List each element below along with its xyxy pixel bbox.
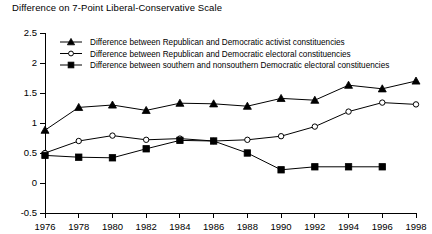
legend-item: Difference between Republican and Democr… [60,50,351,59]
chart-legend: Difference between Republican and Democr… [60,38,389,70]
marker-circle [312,124,317,129]
x-tick-label: 1994 [338,221,359,232]
marker-circle [245,137,250,142]
legend-label: Difference between Republican and Democr… [90,38,345,47]
legend-item: Difference between Republican and Democr… [60,38,345,47]
series-1 [41,77,420,133]
marker-triangle [108,101,116,108]
marker-square [177,137,183,143]
marker-square [42,152,48,158]
x-tick-label: 1978 [68,221,89,232]
x-tick-label: 1980 [102,221,123,232]
legend-label: Difference between Republican and Democr… [90,50,351,59]
marker-square [379,164,385,170]
y-tick-label: -0.5 [21,207,37,218]
marker-square [210,138,216,144]
marker-square [312,164,318,170]
marker-triangle [345,81,353,88]
x-tick-label: 1984 [169,221,190,232]
marker-square [244,150,250,156]
x-tick-label: 1990 [271,221,292,232]
x-tick-label: 1992 [304,221,325,232]
marker-square [143,146,149,152]
x-axis-tick-labels: 1976197819801982198419861988199019921994… [34,221,426,232]
marker-triangle [412,77,420,84]
series-3 [42,137,386,173]
marker-circle [413,102,418,107]
x-tick-label: 1986 [203,221,224,232]
marker-square [278,167,284,173]
x-tick-label: 1976 [34,221,55,232]
marker-circle [110,133,115,138]
x-tick-label: 1988 [237,221,258,232]
y-tick-label: 2 [32,57,37,68]
marker-triangle [41,126,49,133]
y-tick-label: 1.5 [24,87,37,98]
marker-circle [143,137,148,142]
marker-triangle [277,94,285,101]
marker-circle [380,100,385,105]
chart-container: Difference on 7-Point Liberal-Conservati… [0,0,432,234]
marker-square [68,62,74,68]
y-tick-label: 0 [32,177,37,188]
marker-square [76,154,82,160]
legend-item: Difference between southern and nonsouth… [60,61,389,70]
x-tick-label: 1996 [372,221,393,232]
marker-square [345,164,351,170]
marker-circle [69,51,74,56]
series-line [45,103,416,153]
marker-square [109,155,115,161]
y-tick-label: 1 [32,117,37,128]
y-axis-tick-labels: 2.521.510.50-0.5 [21,27,37,218]
marker-circle [278,134,283,139]
y-tick-label: 2.5 [24,27,37,38]
x-tick-label: 1982 [136,221,157,232]
chart-plot: 2.521.510.50-0.5 19761978198019821984198… [0,0,432,234]
legend-label: Difference between southern and nonsouth… [90,61,389,70]
x-tick-label: 1998 [405,221,426,232]
series-line [45,140,382,169]
series-line [45,81,416,130]
marker-circle [346,109,351,114]
marker-circle [76,138,81,143]
y-tick-label: 0.5 [24,147,37,158]
chart-series [41,77,420,173]
